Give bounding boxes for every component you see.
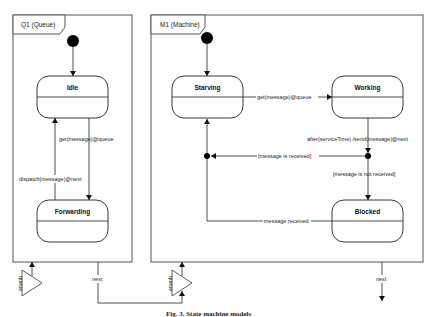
state-blocked[interactable]: Blocked: [332, 200, 403, 242]
machine-initial-state-icon: [201, 32, 213, 44]
label-get-message-queue: get(message)@queue: [59, 136, 114, 142]
state-working-label: Working: [355, 84, 381, 92]
state-diagram: Q1 (Queue) Idle Forwarding get(message)@…: [0, 0, 436, 317]
state-idle-label: Idle: [67, 84, 79, 91]
machine-container: M1 (Machine) Starving Working Blocked ge…: [151, 15, 423, 262]
junction-left-icon: [204, 153, 210, 159]
label-dispatch-message-next: dispatch(message)@next: [19, 176, 82, 182]
queue-port-label: queue: [18, 276, 24, 291]
state-starving[interactable]: Starving: [172, 76, 243, 118]
queue-input-port: queue: [18, 262, 42, 296]
junction-right-icon: [365, 153, 371, 159]
state-forwarding[interactable]: Forwarding: [37, 200, 108, 242]
label-message-received-guard: [message is received]: [258, 153, 312, 159]
state-starving-label: Starving: [194, 84, 220, 92]
state-idle[interactable]: Idle: [37, 76, 108, 118]
queue-title: Q1 (Queue): [21, 21, 55, 29]
state-blocked-label: Blocked: [355, 208, 380, 215]
machine-title: M1 (Machine): [160, 21, 200, 29]
queue-container: Q1 (Queue) Idle Forwarding get(message)@…: [13, 15, 132, 262]
label-message-received: message received: [264, 218, 309, 224]
machine-queue-port-label: queue: [168, 276, 174, 291]
queue-initial-state-icon: [67, 35, 79, 47]
machine-output-port: next: [375, 262, 390, 301]
label-get-message-queue-m1: get(message)@queue: [257, 94, 312, 100]
label-message-not-received-guard: [message is not received]: [333, 171, 396, 177]
machine-next-label: next: [376, 276, 387, 282]
queue-next-label: next: [92, 276, 103, 282]
state-forwarding-label: Forwarding: [55, 208, 90, 216]
state-working[interactable]: Working: [332, 76, 403, 118]
label-after-service-time: after(serviceTime) /send(message)@next: [307, 136, 409, 142]
figure-caption: Fig. 3. State machine models: [166, 310, 251, 317]
machine-input-port: queue: [168, 262, 192, 296]
